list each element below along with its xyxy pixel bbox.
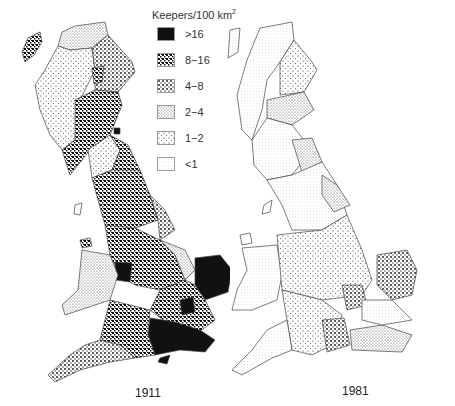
region-wales — [232, 245, 282, 310]
caption-1981: 1981 — [342, 384, 369, 398]
region-hertfordshire — [180, 297, 195, 315]
region-norfolk — [377, 250, 417, 300]
legend-item-1-2: 1−2 — [150, 125, 250, 151]
legend-item-4-8: 4−8 — [150, 73, 250, 99]
legend-item-lt1: <1 — [150, 151, 250, 177]
swatch-gt16 — [157, 27, 175, 41]
anglesey — [240, 233, 252, 245]
swatch-8-16 — [157, 53, 175, 67]
region-hampshire — [322, 318, 350, 352]
legend-label: >16 — [185, 28, 204, 40]
swatch-4-8 — [157, 79, 175, 93]
legend-label: 2−4 — [185, 106, 204, 118]
legend-title-text: Keepers/100 km — [152, 9, 232, 21]
map-1981 — [222, 0, 455, 385]
swatch-lt1 — [157, 157, 175, 171]
swatch-2-4 — [157, 105, 175, 119]
region-sussex — [350, 325, 412, 352]
region-london-kent — [362, 300, 412, 325]
anglesey — [80, 238, 92, 248]
swatch-1-2 — [157, 131, 175, 145]
region-moray — [92, 66, 104, 84]
legend-item-2-4: 2−4 — [150, 99, 250, 125]
legend-label: 1−2 — [185, 132, 204, 144]
isle-of-man — [74, 203, 82, 215]
region-fife — [114, 128, 120, 134]
legend-label: <1 — [185, 158, 198, 170]
region-north-england — [92, 170, 158, 235]
region-hebrides — [22, 32, 42, 62]
isle-of-man — [262, 200, 272, 214]
legend-title: Keepers/100 km2 — [152, 8, 250, 21]
region-shropshire — [115, 262, 132, 282]
legend-label: 8−16 — [185, 54, 210, 66]
region-ne-scotland — [92, 35, 135, 92]
region-devon-cornwall — [232, 320, 292, 375]
region-devon-cornwall — [48, 340, 135, 382]
legend-title-superscript: 2 — [232, 8, 236, 15]
caption-1911: 1911 — [135, 386, 161, 400]
isle-of-wight — [158, 355, 170, 364]
legend-item-8-16: 8−16 — [150, 47, 250, 73]
legend: Keepers/100 km2 >16 8−16 4−8 2−4 1−2 <1 — [150, 8, 250, 177]
legend-item-gt16: >16 — [150, 21, 250, 47]
legend-label: 4−8 — [185, 80, 204, 92]
